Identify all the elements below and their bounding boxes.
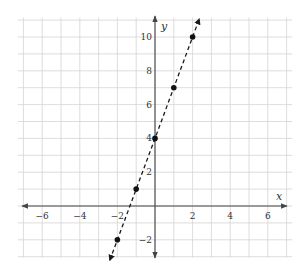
x-tick-label: 4 bbox=[227, 211, 233, 221]
x-tick-label: −4 bbox=[73, 211, 87, 221]
data-point bbox=[190, 34, 196, 40]
y-tick-label: 4 bbox=[146, 133, 152, 143]
y-tick-label: −2 bbox=[139, 235, 152, 245]
y-tick-label: 2 bbox=[146, 167, 152, 177]
y-axis-label: y bbox=[160, 20, 168, 33]
coordinate-plane: −6−4−2246−2246810 x y bbox=[0, 0, 300, 270]
x-tick-label: 6 bbox=[265, 211, 271, 221]
y-tick-label: 8 bbox=[146, 66, 152, 76]
data-point bbox=[133, 186, 139, 192]
data-point bbox=[152, 136, 158, 142]
data-point bbox=[171, 85, 177, 91]
x-axis-label: x bbox=[276, 190, 283, 203]
x-tick-label: −2 bbox=[111, 211, 124, 221]
y-tick-label: 6 bbox=[146, 100, 152, 110]
x-tick-label: 2 bbox=[190, 211, 196, 221]
y-tick-label: 10 bbox=[141, 32, 153, 42]
data-point bbox=[115, 237, 121, 243]
x-tick-label: −6 bbox=[36, 211, 50, 221]
